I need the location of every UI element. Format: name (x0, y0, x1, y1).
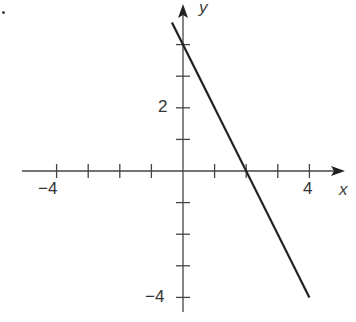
line-series (172, 22, 309, 297)
x-axis-label: x (339, 180, 348, 200)
x-tick-label-4: 4 (303, 179, 312, 199)
y-tick-label-2: 2 (158, 97, 167, 117)
y-tick-label-neg4: −4 (145, 287, 164, 307)
y-axis-label: y (199, 0, 208, 18)
plotted-line (172, 22, 309, 297)
coordinate-plane (0, 0, 356, 322)
x-tick-label-neg4: −4 (38, 179, 57, 199)
